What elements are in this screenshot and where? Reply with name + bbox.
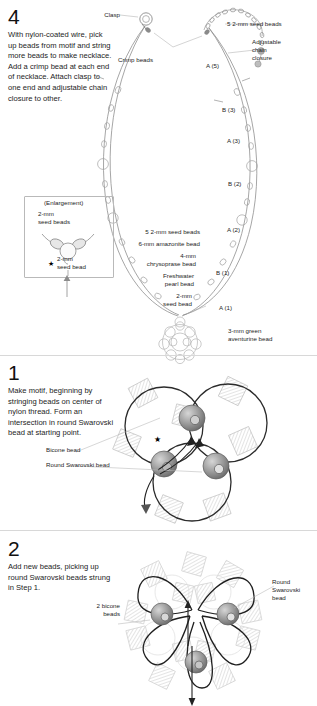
callout-amazonite-bead: 6-mm amazonite bead [110,240,200,248]
label-aventurine-bead: 3-mm green aventurine bead [228,327,312,343]
enlargement-star-icon: ★ [48,260,54,267]
section-divider-1 [0,355,317,356]
callout-chrysoprase-bead: chrysoprase bead [118,260,196,268]
label-round-swarovski-bead: Round Swarovski bead [46,461,110,469]
callout-chrysoprase-size: 4-mm [130,252,196,260]
enlargement-pointer-arrow [61,275,75,297]
step-2-number: 2 [8,538,20,559]
label-bicone-bead: Bicone bead [46,446,80,454]
callout-freshwater: Freshwater [128,272,194,280]
step-2-instructions: Add new beads, picking up round Swarovsk… [8,562,112,594]
callout-2mm: 2-mm [130,292,192,300]
section-divider-2 [0,530,317,531]
label-crimp-beads: Crimp beads [118,56,178,64]
callout-pearl-bead: pearl bead [128,280,194,288]
segment-marker-a3: A (3) [227,137,240,145]
segment-marker-a5: A (5) [206,62,219,70]
label-round-swarovski-bead-step2: Round Swarovski bead [272,578,316,603]
enlargement-bottom-label: 2-mm seed bead [57,255,105,271]
step-2-motif-diagram [128,546,308,706]
step-4-number: 4 [8,6,20,27]
step-1-instructions: Make motif, beginning by stringing beads… [8,386,120,439]
label-2-bicone-beads: 2 bicone beads [76,602,120,618]
segment-marker-b3: B (3) [222,106,235,114]
step-1-number: 1 [8,362,20,383]
callout-5-2mm-seed-beads: 5 2-mm seed beads [118,228,200,236]
label-adjustable-chain-closure: Adjustable chain closure [252,38,312,63]
label-clasp: Clasp [86,11,120,19]
step-1-motif-diagram: ★ [124,370,314,530]
segment-marker-a1: A (1) [219,304,232,312]
segment-marker-a2: A (2) [227,226,240,234]
segment-marker-b1: B (1) [216,269,229,277]
label-seed-beads-top-right: 5 2-mm seed beads [227,20,315,28]
svg-text:★: ★ [154,435,161,444]
segment-marker-b2: B (2) [228,180,241,188]
callout-seed-bead: seed bead [126,300,192,308]
